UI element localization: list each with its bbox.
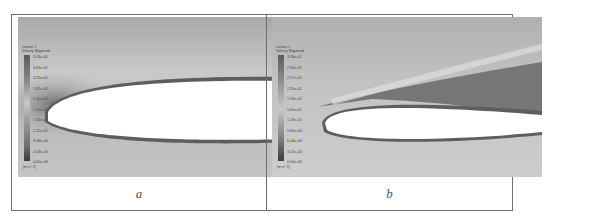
legend-tick: 1.61e+01 <box>33 118 48 122</box>
figure-panel-b: contour-1 Velocity Magnitude 3.20e+01 2.… <box>266 14 513 211</box>
velocity-contour-a <box>18 17 296 177</box>
colorbar <box>278 55 284 161</box>
legend-tick: 1.21e+01 <box>33 129 48 133</box>
legend-tick: 2.25e+01 <box>287 87 302 91</box>
legend-tick: 3.22e+01 <box>33 76 48 80</box>
figure-panel-a: contour-1 Velocity Magnitude 4.03e+01 3.… <box>11 14 266 211</box>
legend-tick: 1.29e+01 <box>287 118 302 122</box>
legend-tick: 2.82e+01 <box>33 87 48 91</box>
legend-tick: 1.93e+01 <box>287 97 302 101</box>
colorbar-legend-b: contour-1 Velocity Magnitude 3.20e+01 2.… <box>276 45 320 53</box>
legend-tick: 9.65e+00 <box>287 129 302 133</box>
legend-subtitle: Velocity Magnitude <box>22 49 66 53</box>
legend-subtitle: Velocity Magnitude <box>276 49 320 53</box>
contour-plot-b: contour-1 Velocity Magnitude 3.20e+01 2.… <box>272 17 542 177</box>
legend-tick: 2.90e+01 <box>287 66 302 70</box>
legend-tick: 3.63e+01 <box>33 66 48 70</box>
legend-tick: 2.01e+01 <box>33 108 48 112</box>
legend-tick: 4.03e+01 <box>33 55 48 59</box>
colorbar-legend-a: contour-1 Velocity Magnitude 4.03e+01 3.… <box>22 45 66 53</box>
legend-units: [m s^-1] <box>23 165 36 169</box>
legend-tick: 8.06e+00 <box>33 139 48 143</box>
legend-tick: 0.00e+00 <box>33 160 48 164</box>
panel-caption-a: a <box>12 186 266 202</box>
contour-plot-a: contour-1 Velocity Magnitude 4.03e+01 3.… <box>18 17 296 177</box>
legend-units: [m s^-1] <box>277 165 290 169</box>
legend-tick: 1.61e+01 <box>287 108 302 112</box>
legend-tick: 2.57e+01 <box>287 76 302 80</box>
legend-tick: 4.03e+00 <box>33 150 48 154</box>
velocity-contour-b <box>272 17 542 177</box>
legend-tick: 3.20e+01 <box>287 55 302 59</box>
legend-tick: 6.44e+00 <box>287 139 302 143</box>
legend-tick: 2.42e+01 <box>33 97 48 101</box>
legend-tick: 3.22e+00 <box>287 150 302 154</box>
panel-caption-b: b <box>267 186 512 202</box>
legend-tick: 0.00e+00 <box>287 160 302 164</box>
colorbar <box>24 55 30 161</box>
airfoil-shape-b <box>325 108 542 139</box>
